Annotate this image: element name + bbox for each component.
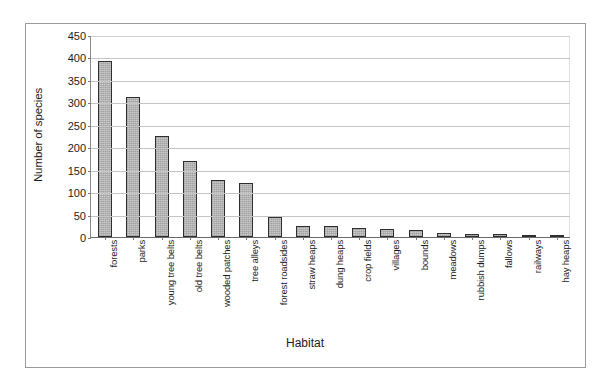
y-axis-title: Number of species (26, 60, 50, 210)
x-tick-label: rubbish dumps (475, 240, 486, 300)
bar (296, 226, 310, 237)
y-axis-title-text: Number of species (32, 88, 44, 182)
x-tick-label: meadows (447, 240, 458, 280)
bar (211, 180, 225, 237)
bar (324, 226, 338, 237)
gridline (91, 216, 570, 217)
bar (183, 161, 197, 237)
y-axis-tick (88, 193, 91, 194)
x-tick-label: railways (532, 240, 543, 273)
y-tick-label: 350 (68, 75, 86, 87)
gridline (91, 126, 570, 127)
y-tick-label: 250 (68, 120, 86, 132)
bars-layer (91, 36, 570, 237)
gridline (91, 36, 570, 37)
x-tick-label: forests (108, 240, 119, 267)
y-axis-tick (88, 148, 91, 149)
x-tick-label: young tree belts (165, 240, 176, 305)
x-tick-label: old tree belts (193, 240, 204, 292)
x-tick-label: crop fields (362, 240, 373, 282)
x-axis-category-labels: forestsparksyoung tree beltsold tree bel… (90, 240, 570, 332)
x-axis-title: Habitat (0, 336, 610, 350)
bar (239, 183, 253, 237)
gridline (91, 193, 570, 194)
x-tick-label: straw heaps (306, 240, 317, 290)
x-tick-label: bounds (419, 240, 430, 270)
y-axis-tick (88, 58, 91, 59)
y-axis-tick (88, 216, 91, 217)
y-axis-tick (88, 36, 91, 37)
y-tick-label: 400 (68, 52, 86, 64)
bar (380, 229, 394, 237)
x-tick-label: forest roadsides (278, 240, 289, 305)
y-tick-label: 50 (74, 210, 86, 222)
y-tick-label: 100 (68, 187, 86, 199)
bar (268, 217, 282, 237)
y-tick-label: 300 (68, 97, 86, 109)
bar-chart-figure: Number of species 4504003503002502001501… (0, 0, 610, 388)
y-axis-tick (88, 238, 91, 239)
x-tick-label: tree alleys (249, 240, 260, 282)
y-tick-label: 450 (68, 30, 86, 42)
y-axis-tick (88, 126, 91, 127)
x-tick-label: villages (390, 240, 401, 270)
gridline (91, 58, 570, 59)
y-axis-tick (88, 81, 91, 82)
x-tick-label: dung heaps (334, 240, 345, 288)
plot-area (90, 36, 570, 238)
gridline (91, 81, 570, 82)
bar (155, 136, 169, 237)
x-tick-label: fallows (503, 240, 514, 268)
bar (409, 230, 423, 237)
x-tick-label: parks (136, 240, 147, 262)
y-axis-tick-labels: 450400350300250200150100500 (50, 36, 86, 238)
gridline (91, 103, 570, 104)
y-axis-tick (88, 103, 91, 104)
x-tick-label: hay heaps (560, 240, 571, 283)
y-tick-label: 200 (68, 142, 86, 154)
x-tick-label: wooded patches (221, 240, 232, 307)
bar (352, 228, 366, 237)
y-tick-label: 150 (68, 165, 86, 177)
gridline (91, 148, 570, 149)
y-axis-tick (88, 171, 91, 172)
gridline (91, 171, 570, 172)
y-tick-label: 0 (80, 232, 86, 244)
